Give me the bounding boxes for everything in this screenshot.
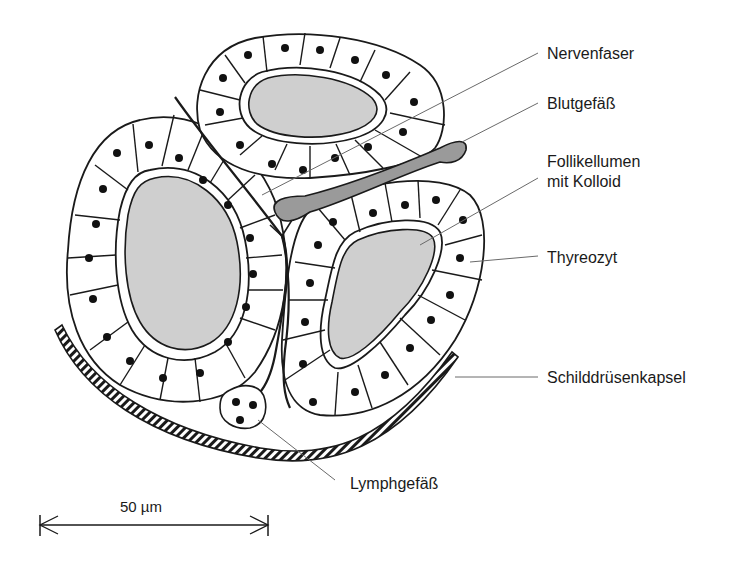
scale-bar: 50 µm [40,498,268,536]
label-blutgefaess: Blutgefäß [547,95,616,112]
label-schilddruesenkapsel: Schilddrüsenkapsel [547,369,686,386]
label-lymphgefaess: Lymphgefäß [350,475,439,492]
label-thyreozyt: Thyreozyt [547,249,618,266]
follicle-top [197,33,445,178]
follicle-right [282,180,484,416]
label-mit-kolloid: mit Kolloid [547,173,621,190]
label-nervenfaser: Nervenfaser [547,45,635,62]
thyroid-follicle-diagram: Nervenfaser Blutgefäß Follikellumen mit … [0,0,754,581]
scale-bar-label: 50 µm [120,498,162,515]
lymph-vessel [220,386,266,429]
label-follikellumen: Follikellumen [547,153,640,170]
